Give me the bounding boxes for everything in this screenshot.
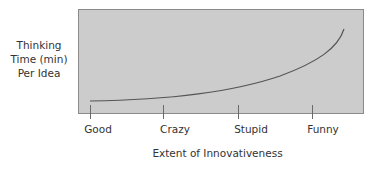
x-tick-label-good: Good [84,123,112,135]
x-tick-label-crazy: Crazy [160,123,190,135]
chart-canvas [0,0,375,169]
x-tick-label-stupid: Stupid [234,123,268,135]
plot-area [79,10,364,114]
x-axis-label: Extent of Innovativeness [0,147,375,159]
x-tick-label-funny: Funny [307,123,339,135]
